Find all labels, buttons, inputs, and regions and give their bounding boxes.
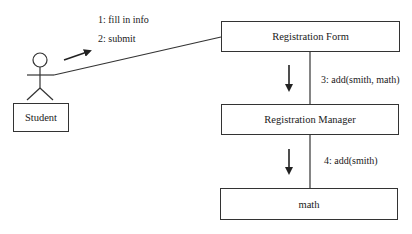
object-registration-manager: Registration Manager xyxy=(221,104,399,135)
actor-stick-figure-icon xyxy=(27,53,54,100)
message-label-2: 2: submit xyxy=(98,33,136,45)
actor-student-box: Student xyxy=(13,103,69,132)
message-label-3: 3: add(smith, math) xyxy=(321,74,400,86)
object-math: math xyxy=(220,188,398,220)
message-label-4: 4: add(smith) xyxy=(324,155,378,167)
object-registration-form: Registration Form xyxy=(221,21,400,52)
object-label: Registration Form xyxy=(272,31,349,42)
message-arrow-1-2-icon xyxy=(64,51,90,60)
object-label: Registration Manager xyxy=(264,114,355,125)
actor-label: Student xyxy=(25,112,57,123)
message-label-1: 1: fill in info xyxy=(98,14,149,26)
object-label: math xyxy=(299,199,320,210)
link-student-form xyxy=(54,37,221,75)
